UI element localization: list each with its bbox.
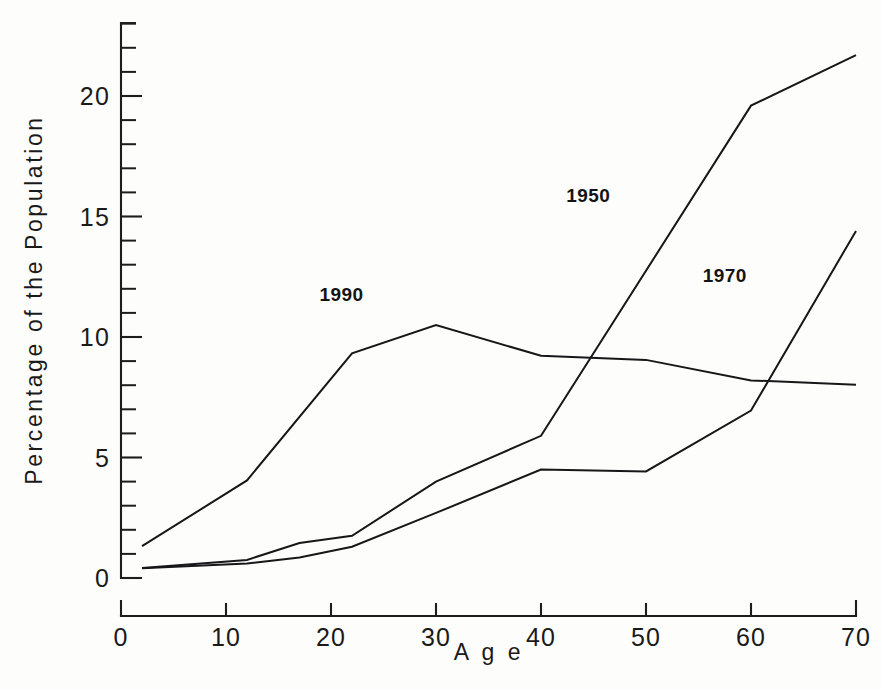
x-tick-label: 10 bbox=[211, 623, 241, 651]
x-tick-label: 30 bbox=[421, 623, 451, 651]
y-tick-label: 10 bbox=[80, 323, 110, 351]
series-annotation-group: 195019701990 bbox=[320, 185, 747, 305]
x-tick-label: 0 bbox=[113, 623, 128, 651]
series-line-1990 bbox=[142, 325, 856, 546]
y-tick-label: 20 bbox=[80, 82, 110, 110]
x-tick-label: 20 bbox=[316, 623, 346, 651]
y-axis-tick-labels: 05101520 bbox=[80, 82, 110, 592]
x-axis-title: A g e bbox=[454, 639, 524, 665]
x-tick-label: 60 bbox=[736, 623, 766, 651]
y-tick-label: 5 bbox=[95, 444, 110, 472]
series-line-1970 bbox=[142, 231, 856, 568]
series-line-1950 bbox=[142, 55, 856, 568]
x-tick-label: 40 bbox=[526, 623, 556, 651]
series-label-1990: 1990 bbox=[320, 284, 364, 305]
chart-canvas: 05101520 010203040506070 195019701990 A … bbox=[0, 0, 882, 690]
y-axis: 05101520 bbox=[80, 23, 142, 592]
y-axis-ticks bbox=[121, 23, 142, 578]
y-tick-label: 15 bbox=[80, 203, 110, 231]
y-axis-title: Percentage of the Population bbox=[21, 115, 47, 484]
x-tick-label: 50 bbox=[631, 623, 661, 651]
line-chart-figure: 05101520 010203040506070 195019701990 A … bbox=[0, 0, 882, 690]
y-tick-label: 0 bbox=[95, 564, 110, 592]
series-label-1950: 1950 bbox=[566, 185, 610, 206]
data-series-group bbox=[142, 55, 856, 568]
x-tick-label: 70 bbox=[841, 623, 871, 651]
series-label-1970: 1970 bbox=[703, 265, 747, 286]
x-axis-ticks bbox=[121, 600, 856, 616]
